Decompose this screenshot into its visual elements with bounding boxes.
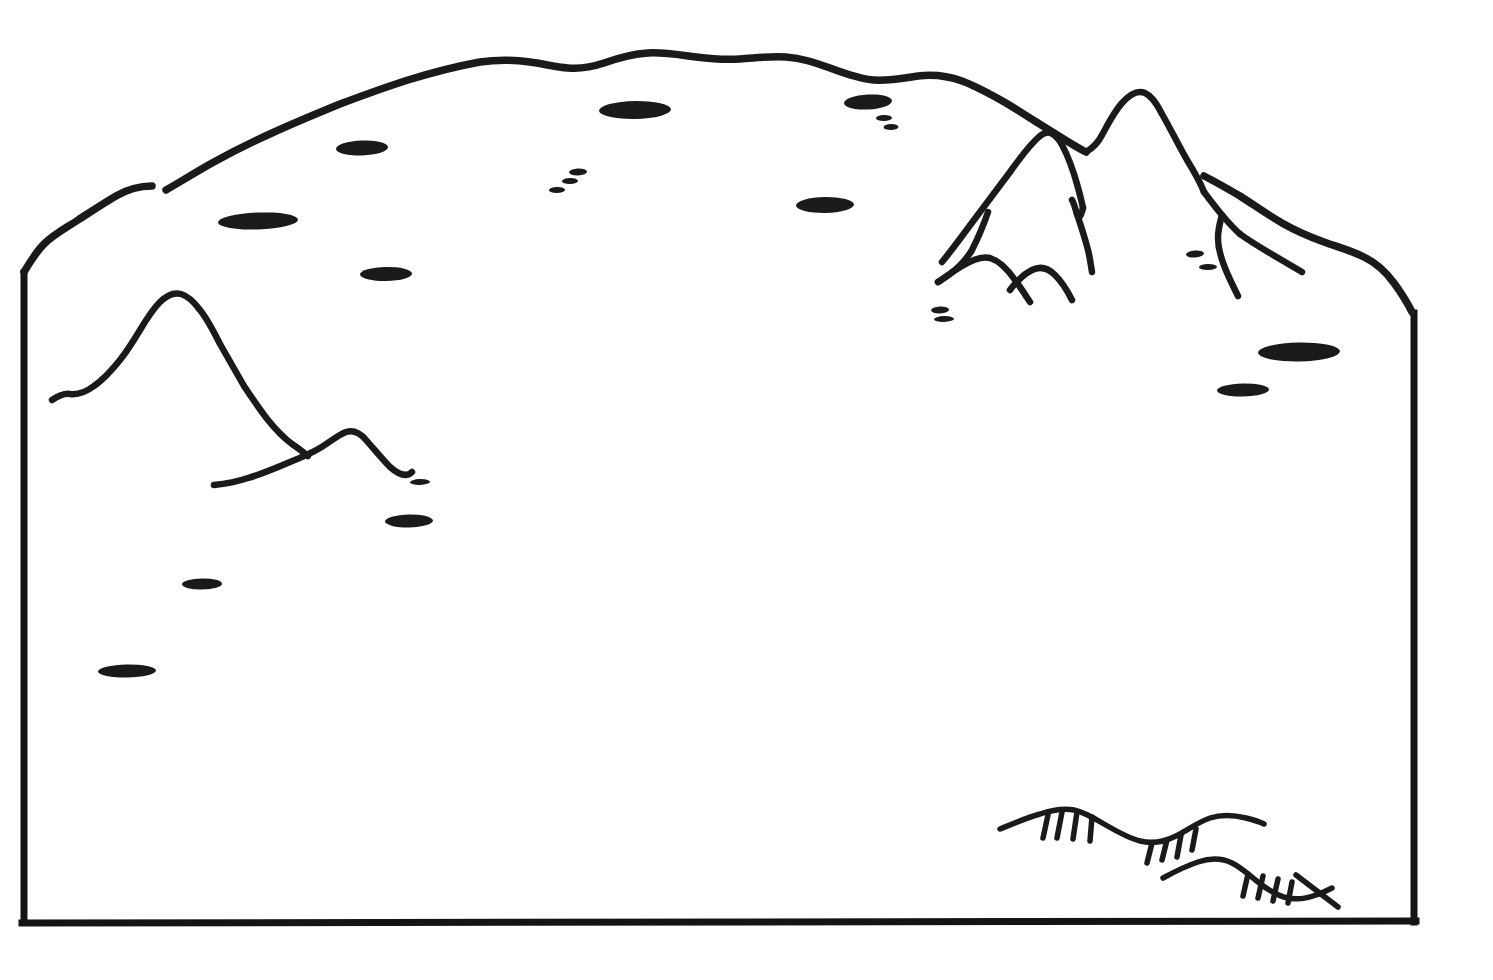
page-background xyxy=(0,0,1493,980)
terrain-sketch-svg xyxy=(0,0,1493,980)
drawing-canvas xyxy=(0,0,1493,980)
frame-bottom-edge xyxy=(22,921,1416,923)
escarpment-upper-tick-4 xyxy=(1090,817,1092,841)
